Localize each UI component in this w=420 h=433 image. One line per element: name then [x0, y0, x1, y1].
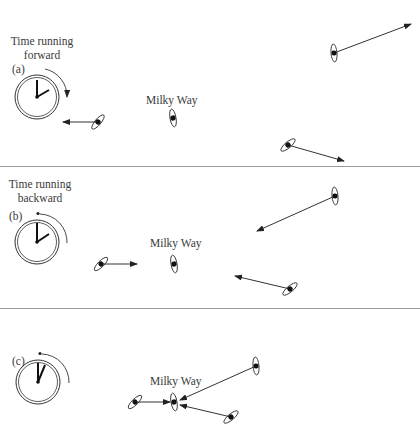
panel-a-galaxy-bottom-right: [279, 137, 344, 161]
panel-a-galaxy-top-right: [330, 24, 411, 62]
panel-c-clock-icon: [16, 360, 60, 404]
panel-b-clock-icon: [15, 220, 59, 264]
panel-c-converging-galaxies: [127, 357, 260, 425]
panel-a-milky-way-galaxy: [168, 109, 177, 128]
panel-a-clock-icon: [15, 75, 59, 119]
panel-a-galaxy-left: [63, 113, 106, 131]
panel-b-galaxy-bottom-right: [235, 276, 299, 297]
diagram-canvas: [0, 0, 420, 433]
panel-b-galaxy-top-right: [257, 187, 339, 231]
panel-b-milky-way-galaxy: [169, 255, 178, 274]
panel-b-galaxy-left: [93, 256, 137, 273]
